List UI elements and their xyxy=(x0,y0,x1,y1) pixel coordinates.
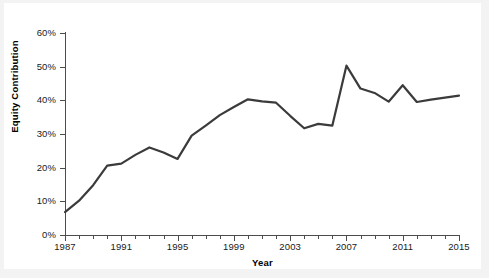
y-axis-title: Equity Contribution xyxy=(9,2,20,172)
chart-card: 0%10%20%30%40%50%60% 1987199119951999200… xyxy=(4,3,481,269)
equity-contribution-line xyxy=(65,66,459,212)
line-series-layer xyxy=(4,3,481,269)
x-axis-title: Year xyxy=(65,257,460,268)
chart-figure: 0%10%20%30%40%50%60% 1987199119951999200… xyxy=(0,0,489,278)
